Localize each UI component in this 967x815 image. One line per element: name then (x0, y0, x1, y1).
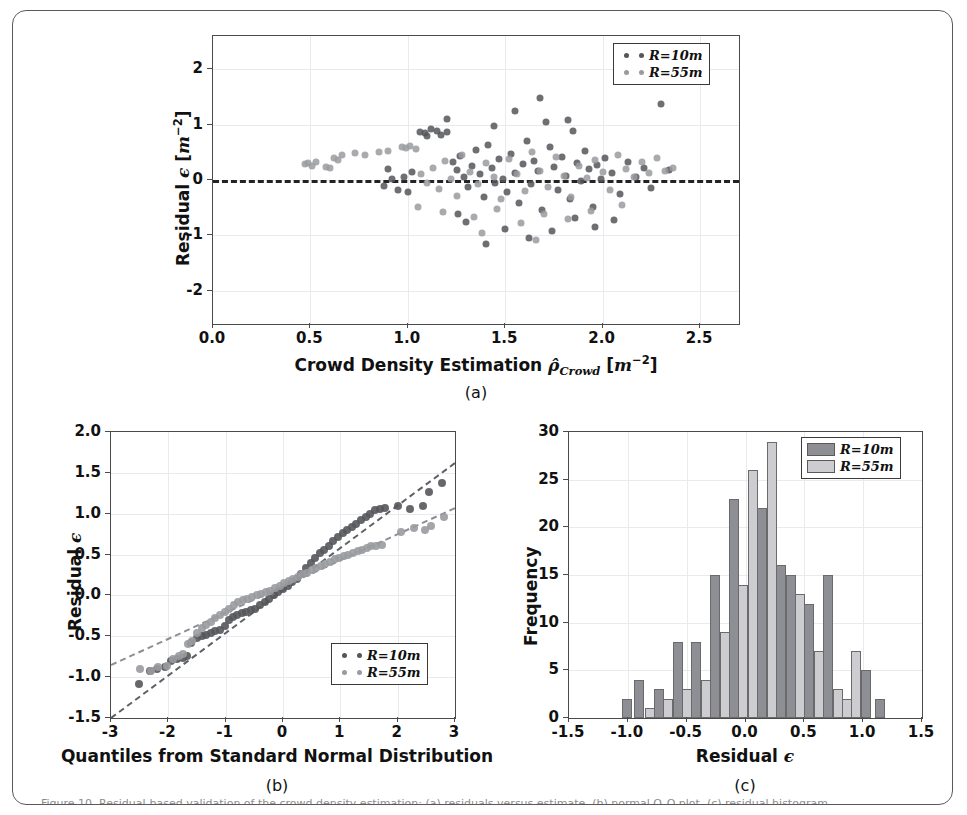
scatter-point (615, 152, 622, 159)
y-tick-label: -0.5 (13, 626, 101, 644)
legend-label: R=10m (649, 48, 703, 63)
y-tick-label: 10 (483, 613, 559, 631)
panel-c-legend: R=10mR=55m (801, 437, 901, 479)
x-tick (454, 717, 455, 722)
legend-item[interactable]: R=10m (619, 47, 703, 64)
scatter-point (395, 186, 402, 193)
y-tick-label: -1.5 (13, 708, 101, 726)
scatter-point (502, 225, 509, 232)
scatter-point (476, 171, 483, 178)
y-tick (207, 290, 212, 291)
legend-item[interactable]: R=55m (807, 458, 894, 475)
y-tick (563, 574, 568, 575)
y-tick-label: 5 (483, 660, 559, 678)
scatter-point (669, 164, 676, 171)
scatter-point (478, 229, 485, 236)
legend-dot-group (337, 653, 367, 658)
panel-b-x-axis-label: Quantiles from Standard Normal Distribut… (61, 746, 493, 766)
scatter-point (375, 149, 382, 156)
scatter-point (568, 193, 575, 200)
y-tick-label: 0.5 (13, 545, 101, 563)
x-tick-label: 3 (449, 723, 459, 741)
scatter-point (389, 175, 396, 182)
y-tick (105, 431, 110, 432)
x-tick-label: 1 (334, 723, 344, 741)
scatter-point (496, 155, 503, 162)
legend-item[interactable]: R=55m (619, 64, 703, 81)
qq-point (425, 488, 433, 496)
scatter-point (515, 199, 522, 206)
scatter-point (449, 159, 456, 166)
scatter-point (531, 157, 538, 164)
scatter-point (435, 185, 442, 192)
legend-item[interactable]: R=55m (337, 664, 421, 681)
x-tick (602, 323, 603, 328)
qq-point (427, 522, 435, 530)
x-tick (110, 717, 111, 722)
x-tick (282, 717, 283, 722)
scatter-point (623, 165, 630, 172)
y-tick (105, 676, 110, 677)
x-tick-label: 0.0 (199, 329, 226, 347)
x-tick (862, 717, 863, 722)
scatter-point (601, 154, 608, 161)
qq-point (440, 513, 448, 521)
scatter-point (630, 173, 637, 180)
scatter-point (453, 192, 460, 199)
scatter-point (504, 189, 511, 196)
histogram-bar (875, 699, 885, 718)
scatter-point (597, 176, 604, 183)
legend-dot-group (337, 670, 367, 675)
qq-point (397, 528, 405, 536)
legend-item[interactable]: R=10m (807, 441, 894, 458)
scatter-point (465, 183, 472, 190)
y-gridline (569, 575, 922, 576)
x-tick (627, 717, 628, 722)
x-tick-label: 2.5 (686, 329, 713, 347)
scatter-point (471, 213, 478, 220)
scatter-point (554, 186, 561, 193)
scatter-point (439, 209, 446, 216)
y-tick (207, 68, 212, 69)
x-tick-label: 0.0 (731, 723, 758, 741)
scatter-point (564, 215, 571, 222)
panel-b-qqplot: Residual ϵ Quantiles from Standard Norma… (13, 411, 483, 805)
panel-c-y-axis-label: Frequency (521, 546, 541, 646)
x-tick (686, 717, 687, 722)
x-tick-label: 2.0 (588, 329, 615, 347)
y-tick-label: 2.0 (13, 422, 101, 440)
legend-dot-group (619, 70, 649, 75)
scatter-point (572, 214, 579, 221)
scatter-point (587, 208, 594, 215)
qq-point (135, 680, 143, 688)
histogram-bar (861, 670, 871, 718)
scatter-point (543, 118, 550, 125)
y-tick (207, 179, 212, 180)
scatter-point (658, 100, 665, 107)
scatter-point (385, 165, 392, 172)
scatter-point (453, 167, 460, 174)
legend-swatch (807, 460, 835, 473)
x-tick-label: -0.5 (669, 723, 702, 741)
scatter-point (517, 220, 524, 227)
legend-dot (639, 53, 644, 58)
x-tick-label: 2 (391, 723, 401, 741)
y-tick (563, 431, 568, 432)
scatter-point (552, 153, 559, 160)
histogram-bar (634, 680, 644, 718)
scatter-point (547, 143, 554, 150)
qq-point (163, 662, 171, 670)
legend-item[interactable]: R=10m (337, 647, 421, 664)
x-tick-label: 1.0 (849, 723, 876, 741)
scatter-point (609, 170, 616, 177)
y-tick-label: 0 (13, 170, 203, 188)
scatter-point (654, 154, 661, 161)
scatter-point (591, 157, 598, 164)
x-tick (407, 323, 408, 328)
y-tick-label: 2 (13, 59, 203, 77)
y-tick (105, 717, 110, 718)
scatter-point (545, 183, 552, 190)
scatter-point (564, 117, 571, 124)
scatter-point (418, 171, 425, 178)
scatter-point (648, 184, 655, 191)
